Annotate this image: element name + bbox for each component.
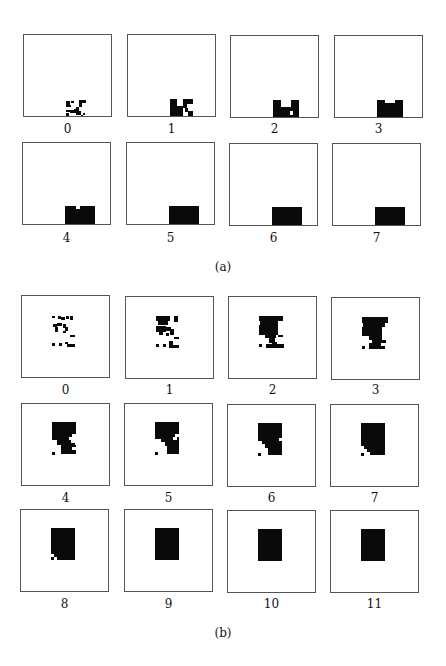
binary-pattern <box>21 510 108 591</box>
binary-pattern <box>231 36 318 117</box>
panel-b-11 <box>330 510 419 593</box>
binary-pattern <box>125 404 212 485</box>
panel-label: 6 <box>229 231 318 245</box>
panel-b-6 <box>227 404 316 487</box>
binary-pattern <box>228 405 315 486</box>
panel-a-0 <box>23 34 112 117</box>
caption-a: (a) <box>0 260 446 274</box>
panel-label: 3 <box>334 122 423 136</box>
panel-b-1 <box>125 296 214 379</box>
binary-pattern <box>125 510 212 591</box>
panel-b-10 <box>227 510 316 593</box>
binary-pattern <box>333 144 420 225</box>
panel-a-2 <box>230 35 319 118</box>
panel-label: 1 <box>127 122 216 136</box>
panel-label: 10 <box>227 597 316 611</box>
panel-a-1 <box>127 34 216 117</box>
binary-pattern <box>24 35 111 116</box>
panel-a-7 <box>332 143 421 226</box>
panel-a-5 <box>126 142 215 225</box>
panel-a-4 <box>22 142 111 225</box>
binary-pattern <box>331 405 418 486</box>
panel-label: 5 <box>124 491 213 505</box>
panel-a-6 <box>229 143 318 226</box>
binary-pattern <box>128 35 215 116</box>
panel-b-3 <box>331 297 420 380</box>
panel-label: 1 <box>125 383 214 397</box>
panel-label: 9 <box>124 597 213 611</box>
panel-label: 4 <box>22 231 111 245</box>
binary-pattern <box>335 36 422 117</box>
panel-b-2 <box>228 296 317 379</box>
panel-b-8 <box>20 509 109 592</box>
binary-pattern <box>331 511 418 592</box>
panel-b-4 <box>21 403 110 486</box>
binary-pattern <box>23 143 110 224</box>
panel-label: 8 <box>20 597 109 611</box>
panel-label: 6 <box>227 491 316 505</box>
panel-b-0 <box>21 295 110 378</box>
panel-label: 7 <box>330 491 419 505</box>
panel-label: 4 <box>21 491 110 505</box>
panel-a-3 <box>334 35 423 118</box>
panel-label: 11 <box>330 597 419 611</box>
panel-b-5 <box>124 403 213 486</box>
binary-pattern <box>230 144 317 225</box>
panel-label: 2 <box>228 383 317 397</box>
panel-label: 0 <box>23 122 112 136</box>
panel-label: 5 <box>126 231 215 245</box>
panel-label: 0 <box>21 383 110 397</box>
panel-label: 7 <box>332 231 421 245</box>
panel-b-9 <box>124 509 213 592</box>
binary-pattern <box>127 143 214 224</box>
caption-b: (b) <box>0 626 446 640</box>
binary-pattern <box>22 296 109 377</box>
binary-pattern <box>22 404 109 485</box>
panel-b-7 <box>330 404 419 487</box>
panel-label: 3 <box>331 383 420 397</box>
binary-pattern <box>228 511 315 592</box>
binary-pattern <box>332 298 419 379</box>
binary-pattern <box>229 297 316 378</box>
binary-pattern <box>126 297 213 378</box>
panel-label: 2 <box>230 122 319 136</box>
